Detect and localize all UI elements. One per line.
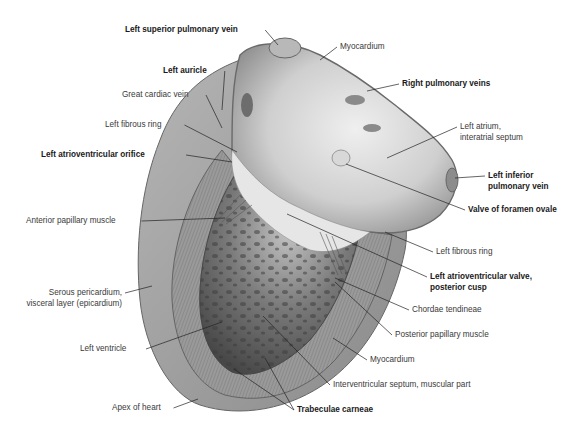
label-left-ventricle: Left ventricle [80,344,126,355]
heart-anatomy-figure: Left superior pulmonary veinLeft auricle… [0,0,585,435]
label-valve-of-foramen-ovale: Valve of foramen ovale [468,205,557,216]
label-left-auricle: Left auricle [163,66,207,77]
label-left-atrioventricular-valve-posterior-cusp: Left atrioventricular valve,posterior cu… [430,272,532,293]
label-myocardium-top: Myocardium [340,42,385,53]
label-apex-of-heart: Apex of heart [112,403,161,414]
label-left-atrioventricular-orifice: Left atrioventricular orifice [41,150,145,161]
label-left-superior-pulmonary-vein: Left superior pulmonary vein [125,25,238,36]
label-anterior-papillary-muscle: Anterior papillary muscle [26,216,116,227]
leader-line-apex-of-heart [174,399,199,408]
label-left-fibrous-ring-2: Left fibrous ring [436,247,492,258]
label-left-atrium-interatrial-septum: Left atrium,interatrial septum [460,122,523,143]
label-left-fibrous-ring-1: Left fibrous ring [105,120,161,131]
leader-line-left-inferior-pulmonary-vein [455,176,485,178]
label-chordae-tendineae: Chordae tendineae [412,305,482,316]
label-great-cardiac-vein: Great cardiac vein [122,90,188,101]
label-right-pulmonary-veins: Right pulmonary veins [402,79,490,90]
label-posterior-papillary-muscle: Posterior papillary muscle [395,330,489,341]
label-left-inferior-pulmonary-vein: Left inferiorpulmonary vein [488,171,549,192]
leader-line-myocardium-top [320,47,337,60]
label-trabeculae-carneae: Trabeculae carneae [297,405,373,416]
label-interventricular-septum: Interventricular septum, muscular part [333,380,470,391]
label-serous-pericardium: Serous pericardium,visceral layer (epica… [25,288,122,309]
label-myocardium-bottom: Myocardium [370,355,415,366]
